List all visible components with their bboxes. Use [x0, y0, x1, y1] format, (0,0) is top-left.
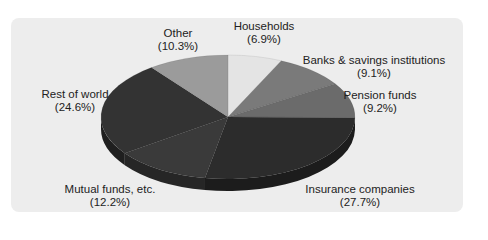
pie-slice-insurance-companies	[205, 117, 355, 179]
label-other: Other(10.3%)	[158, 27, 198, 53]
label-percent: (9.2%)	[344, 102, 417, 115]
label-text: Mutual funds, etc.	[65, 183, 156, 196]
label-percent: (27.7%)	[305, 196, 414, 209]
label-pension: Pension funds(9.2%)	[344, 89, 417, 115]
label-text: Pension funds	[344, 89, 417, 102]
label-text: Households	[234, 20, 295, 33]
label-percent: (9.1%)	[303, 67, 446, 80]
label-rest-of-world: Rest of world(24.6%)	[41, 88, 108, 114]
label-mutual: Mutual funds, etc.(12.2%)	[65, 183, 156, 209]
label-text: Insurance companies	[305, 183, 414, 196]
label-percent: (24.6%)	[41, 101, 108, 114]
label-percent: (10.3%)	[158, 40, 198, 53]
label-insurance: Insurance companies(27.7%)	[305, 183, 414, 209]
label-banks: Banks & savings institutions(9.1%)	[303, 54, 446, 80]
label-households: Households(6.9%)	[234, 20, 295, 46]
label-percent: (6.9%)	[234, 33, 295, 46]
label-text: Other	[158, 27, 198, 40]
label-text: Rest of world	[41, 88, 108, 101]
label-percent: (12.2%)	[65, 196, 156, 209]
label-text: Banks & savings institutions	[303, 54, 446, 67]
